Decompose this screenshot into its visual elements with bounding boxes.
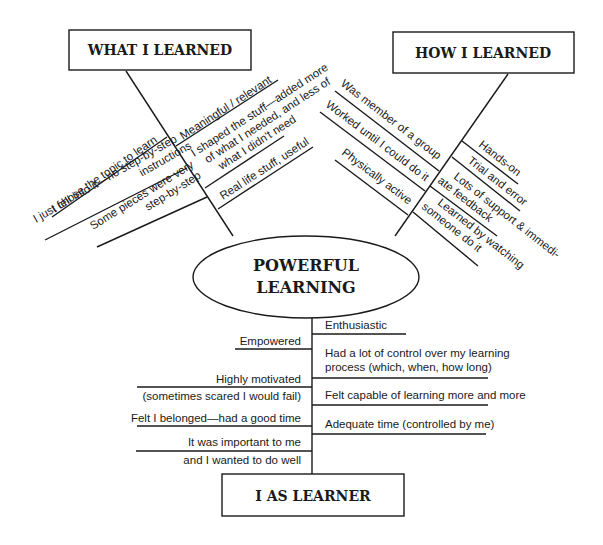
center-ellipse: [193, 236, 419, 318]
how-i-learned-group: HOW I LEARNED Was member of a group Work…: [320, 32, 574, 283]
what-i-learned-group: WHAT I LEARNED I chose the topic to lear…: [31, 30, 347, 247]
how-i-learned-title: HOW I LEARNED: [415, 45, 551, 61]
branch-label: Adequate time (controlled by me): [325, 418, 495, 430]
i-as-learner-title: I AS LEARNER: [255, 488, 371, 504]
branch-label: Enthusiastic: [325, 319, 387, 331]
branch-label: Felt I belonged—had a good time: [131, 412, 301, 424]
center-label-line1: POWERFUL: [253, 256, 359, 275]
branch-label: (sometimes scared I would fail): [143, 390, 302, 402]
branch-label: It was important to me: [188, 436, 301, 448]
branch-label: and I wanted to do well: [183, 454, 301, 466]
what-i-learned-title: WHAT I LEARNED: [87, 42, 232, 58]
branch-label: Empowered: [240, 335, 301, 347]
branch-label: Felt capable of learning more and more: [325, 389, 526, 401]
branch-label: process (which, when, how long): [325, 361, 492, 373]
branch-label: Had a lot of control over my learning: [325, 347, 510, 359]
center-node: POWERFUL LEARNING: [193, 236, 419, 318]
branch-label: Highly motivated: [216, 373, 301, 385]
i-as-learner-group: I AS LEARNER Empowered Highly motivated …: [131, 318, 526, 516]
center-label-line2: LEARNING: [256, 278, 356, 297]
mind-map-diagram: WHAT I LEARNED I chose the topic to lear…: [0, 0, 603, 545]
